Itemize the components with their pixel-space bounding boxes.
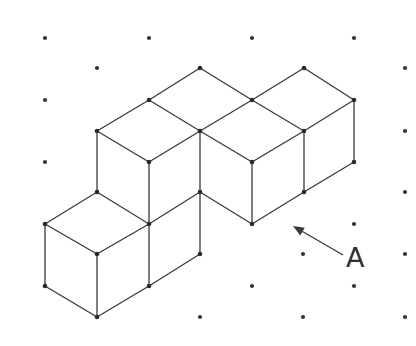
cube-edge <box>149 100 200 131</box>
vertex-dot <box>198 129 203 134</box>
arrow-head-icon <box>293 226 305 235</box>
cube-edge <box>45 224 97 254</box>
vertex-dot <box>250 222 255 227</box>
vertex-dot <box>302 66 307 71</box>
grid-dot <box>403 190 407 194</box>
cube-edge <box>252 68 304 100</box>
grid-dot <box>43 160 47 164</box>
cube-edge <box>200 131 252 162</box>
grid-dot <box>403 315 407 319</box>
grid-dot <box>198 315 202 319</box>
grid-dot <box>403 66 407 70</box>
cube-edge <box>45 286 97 317</box>
cube-edge <box>200 68 252 100</box>
cube-edge <box>252 131 304 162</box>
vertex-dot <box>95 252 100 257</box>
grid-dot <box>301 315 305 319</box>
vertex-dot <box>95 190 100 195</box>
cube-edge <box>304 68 354 100</box>
vertex-dot <box>198 252 203 257</box>
cube-edge <box>200 192 252 224</box>
grid-dot <box>403 252 407 256</box>
grid-dot <box>352 222 356 226</box>
vertex-dot <box>352 160 357 165</box>
vertex-dot <box>198 66 203 71</box>
vertex-dot <box>147 160 152 165</box>
grid-dot <box>147 36 151 40</box>
vertex-dot <box>302 129 307 134</box>
cube-edge <box>304 100 354 131</box>
vertex-dot <box>250 160 255 165</box>
cube-edge <box>149 68 200 100</box>
vertex-dot <box>147 98 152 103</box>
cube-vertices <box>43 66 357 320</box>
cube-edge <box>97 192 149 224</box>
vertex-dot <box>198 190 203 195</box>
view-label-a: A <box>346 244 364 271</box>
vertex-dot <box>43 284 48 289</box>
grid-dot <box>250 36 254 40</box>
grid-dot <box>95 66 99 70</box>
vertex-dot <box>352 98 357 103</box>
grid-dot <box>403 129 407 133</box>
cube-edge <box>149 131 200 162</box>
cube-edge <box>149 192 200 224</box>
vertex-dot <box>147 222 152 227</box>
isometric-cube-diagram <box>0 0 416 346</box>
cube-edge <box>149 254 200 286</box>
cube-edge <box>97 224 149 254</box>
grid-dot <box>43 36 47 40</box>
direction-arrow <box>293 226 343 255</box>
vertex-dot <box>250 98 255 103</box>
vertex-dot <box>302 190 307 195</box>
vertex-dot <box>95 129 100 134</box>
vertex-dot <box>95 315 100 320</box>
grid-dot <box>301 252 305 256</box>
grid-dot <box>250 284 254 288</box>
cube-edge <box>45 192 97 224</box>
cube-edge <box>304 162 354 192</box>
cube-edge <box>97 131 149 162</box>
grid-dot <box>352 36 356 40</box>
cube-edge <box>252 100 304 131</box>
cube-edge <box>97 286 149 317</box>
grid-dot <box>43 98 47 102</box>
cube-edge <box>252 192 304 224</box>
vertex-dot <box>147 284 152 289</box>
cube-edge <box>97 100 149 131</box>
cube-edge <box>200 100 252 131</box>
arrow-shaft <box>303 232 343 255</box>
vertex-dot <box>43 222 48 227</box>
grid-dot <box>352 284 356 288</box>
